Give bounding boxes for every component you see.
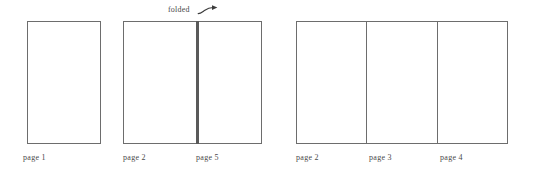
caption-folded-page-5: page 5 bbox=[196, 153, 219, 162]
curved-arrow-right-icon bbox=[197, 4, 219, 15]
caption-open-page-4: page 4 bbox=[440, 153, 463, 162]
sheet-rectangle-open bbox=[296, 21, 508, 144]
fold-line bbox=[196, 21, 199, 144]
panel-divider-second bbox=[437, 21, 438, 144]
caption-folded-page-2: page 2 bbox=[123, 153, 146, 162]
caption-open-page-3: page 3 bbox=[369, 153, 392, 162]
sheet-rectangle-page-1 bbox=[27, 21, 101, 144]
fold-annotation-label: folded bbox=[168, 5, 190, 14]
panel-divider-first bbox=[366, 21, 367, 144]
paper-folding-figure: page 1 folded page 2 page 5 page 2 page … bbox=[0, 0, 538, 175]
sheet-rectangle-folded bbox=[123, 21, 262, 144]
fold-annotation: folded bbox=[168, 1, 219, 17]
caption-open-page-2: page 2 bbox=[296, 153, 319, 162]
caption-page-1: page 1 bbox=[23, 153, 46, 162]
